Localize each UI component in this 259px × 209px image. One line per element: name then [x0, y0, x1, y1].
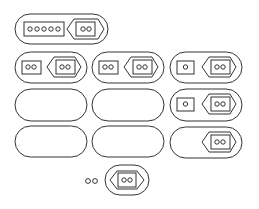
grid-cell-1-1 — [15, 52, 87, 83]
answer-piece — [86, 165, 149, 195]
puzzle-diagram — [0, 0, 259, 209]
grid-cell-2-1 — [15, 89, 87, 121]
grid-cell-2-2 — [92, 89, 164, 121]
grid-cell-3-1 — [15, 126, 87, 157]
grid-cell-2-3 — [170, 89, 242, 121]
grid-cell-3-3 — [170, 127, 242, 158]
grid-cell-1-2 — [92, 52, 164, 83]
grid-cell-3-2 — [92, 126, 164, 157]
grid-cell-1-3 — [170, 52, 242, 83]
top-pill — [15, 14, 108, 44]
